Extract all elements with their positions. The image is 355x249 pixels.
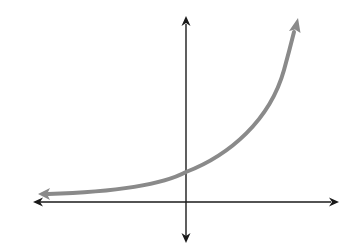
exponential-graph bbox=[0, 0, 355, 249]
exponential-curve bbox=[38, 18, 301, 200]
y-axis bbox=[182, 16, 191, 243]
